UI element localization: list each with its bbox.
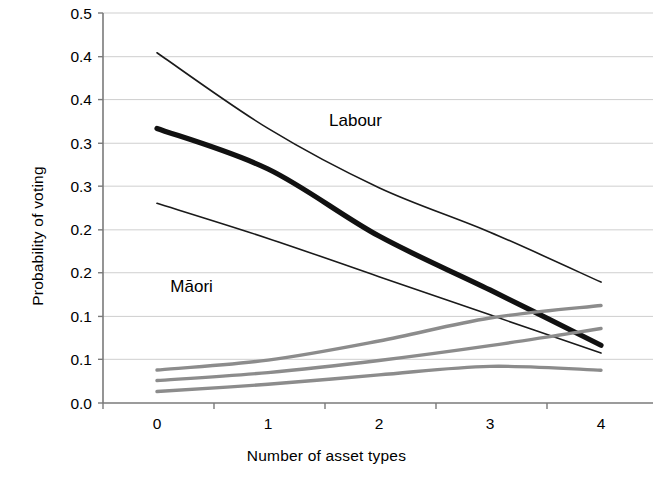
x-axis-tick-label: 3 bbox=[486, 415, 495, 432]
series-annotation-label: Māori bbox=[170, 277, 213, 296]
y-axis-tick-label: 0.2 bbox=[70, 264, 92, 281]
y-axis-tick-label: 0.5 bbox=[70, 5, 92, 22]
series-line bbox=[157, 203, 601, 353]
series-line bbox=[157, 366, 601, 391]
y-axis-tick-label: 0.1 bbox=[70, 308, 92, 325]
series-line bbox=[157, 53, 601, 282]
x-axis-tick-label: 2 bbox=[375, 415, 384, 432]
y-axis-tick-label: 0.3 bbox=[70, 178, 92, 195]
y-axis-tick-label: 0.4 bbox=[70, 91, 92, 108]
x-axis-tick-label: 4 bbox=[597, 415, 606, 432]
chart-figure: 0.50.40.40.30.30.20.20.10.10.0 01234 Lab… bbox=[0, 0, 653, 478]
x-axis-tick-label: 1 bbox=[264, 415, 273, 432]
y-axis-title: Probability of voting bbox=[29, 136, 47, 336]
y-axis: 0.50.40.40.30.30.20.20.10.10.0 bbox=[70, 5, 103, 412]
x-axis-tick-label: 0 bbox=[153, 415, 162, 432]
series-line bbox=[157, 329, 601, 381]
series-lines bbox=[157, 53, 601, 392]
y-axis-tick-label: 0.1 bbox=[70, 351, 92, 368]
x-axis-title: Number of asset types bbox=[0, 447, 653, 465]
y-axis-tick-label: 0.2 bbox=[70, 221, 92, 238]
y-axis-tick-label: 0.0 bbox=[70, 395, 92, 412]
y-axis-tick-label: 0.4 bbox=[70, 48, 92, 65]
y-axis-tick-label: 0.3 bbox=[70, 135, 92, 152]
x-axis: 01234 bbox=[103, 403, 653, 432]
series-annotation-label: Labour bbox=[329, 111, 382, 130]
series-annotations: LabourMāori bbox=[170, 111, 382, 296]
chart-canvas: 0.50.40.40.30.30.20.20.10.10.0 01234 Lab… bbox=[0, 0, 653, 478]
